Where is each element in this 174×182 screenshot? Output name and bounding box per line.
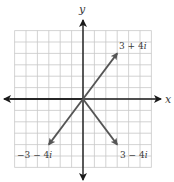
y-axis-label: y — [78, 3, 86, 16]
x-axis-label: x — [165, 93, 172, 106]
label-real-part: −3 − 4 — [17, 150, 50, 160]
label-imag-unit: i — [144, 41, 147, 51]
label-real-part: 3 + 4 — [119, 41, 144, 51]
label-3-plus-4i: 3 + 4i — [119, 41, 147, 51]
label-imag-unit: i — [49, 150, 52, 160]
complex-plane-diagram: x y 3 + 4i −3 − 4i 3 − 4i — [0, 0, 174, 182]
label-real-part: 3 − 4 — [120, 150, 145, 160]
label-imag-unit: i — [145, 150, 148, 160]
label-3-minus-4i: 3 − 4i — [120, 150, 148, 160]
label-minus-3-minus-4i: −3 − 4i — [17, 150, 52, 160]
